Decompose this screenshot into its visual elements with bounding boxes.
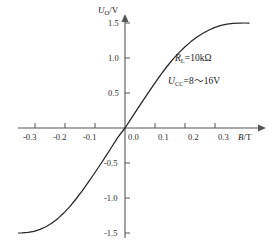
hall-sensor-transfer-characteristic-figure: UO/V B/T -0.3 -0.2 -0.1 0.0 0.1 0.2 0.3 … [0,0,275,250]
y-axis-arrowhead [121,14,128,22]
x-tick-label: 0.1 [158,133,169,142]
annotation-supply-voltage: UCC=8～16V [168,77,220,87]
y-tick-label: 0.5 [108,89,119,98]
y-tick-label: -0.5 [104,159,117,168]
x-tick-label: -0.1 [83,133,96,142]
y-tick-label: 1.0 [108,54,119,63]
x-axis-label: B/T [238,133,252,142]
chart-canvas [0,0,275,250]
figure-caption [0,241,275,250]
y-tick-label: -1.5 [104,229,117,238]
y-tick-label: 1.5 [108,19,119,28]
y-tick-label: -1.0 [104,194,117,203]
x-tick-label: -0.2 [53,133,66,142]
x-tick-label: -0.3 [23,133,36,142]
x-axis-arrowhead [258,124,266,131]
annotation-load-resistance: RL=10kΩ [175,54,211,64]
y-axis-label: UO/V [98,6,118,15]
x-tick-label: 0.0 [128,133,139,142]
x-tick-label: 0.3 [218,133,229,142]
x-tick-label: 0.2 [188,133,199,142]
